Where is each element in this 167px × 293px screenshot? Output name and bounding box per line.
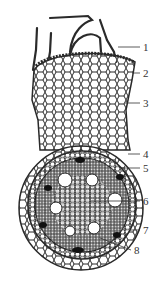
xylem-vessel xyxy=(108,193,122,207)
cortex-region xyxy=(32,54,135,150)
xylem-vessel xyxy=(65,226,75,236)
xylem-vessel xyxy=(88,222,100,234)
label-3: 3 xyxy=(143,98,149,109)
label-6: 6 xyxy=(143,196,149,207)
label-8: 8 xyxy=(134,245,140,256)
xylem-vessel xyxy=(50,202,62,214)
label-2: 2 xyxy=(143,68,149,79)
label-1: 1 xyxy=(143,42,149,53)
label-5: 5 xyxy=(143,163,149,174)
xylem-vessel xyxy=(58,173,72,187)
xylem-vessel xyxy=(86,174,98,186)
label-4: 4 xyxy=(143,149,149,160)
label-7: 7 xyxy=(143,225,149,236)
root-anatomy-drawing xyxy=(0,0,167,293)
root-cross-section-figure: 12345678 xyxy=(0,0,167,293)
